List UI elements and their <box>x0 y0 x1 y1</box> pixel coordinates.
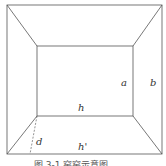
label-d: d <box>36 136 42 147</box>
outer-square <box>7 5 162 154</box>
edge-top-right <box>133 5 162 46</box>
edge-bottom-left <box>7 116 37 154</box>
label-b: b <box>150 77 156 88</box>
label-a: a <box>121 77 127 88</box>
slant-height-dashed <box>30 116 37 154</box>
frustum-diagram: a b h h' d 图 3-1 窑窑示意图 <box>0 0 166 166</box>
inner-square <box>37 46 133 116</box>
edge-top-left <box>7 5 37 46</box>
label-h-prime: h' <box>78 141 87 152</box>
figure-caption: 图 3-1 窑窑示意图 <box>34 159 108 166</box>
edge-bottom-right <box>133 116 162 154</box>
label-h: h <box>78 102 84 113</box>
